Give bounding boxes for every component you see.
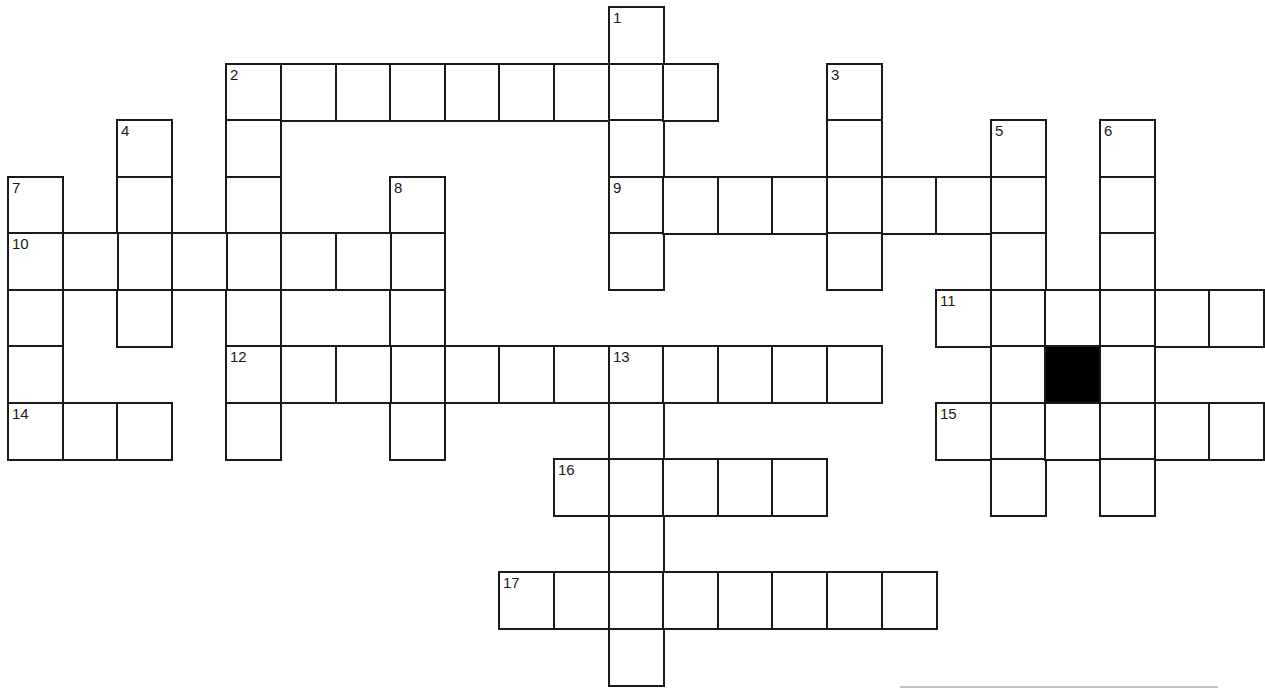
crossword-cell[interactable]: 4 bbox=[116, 119, 173, 178]
crossword-cell[interactable]: 10 bbox=[7, 232, 64, 291]
clue-number: 7 bbox=[12, 180, 20, 195]
crossword-cell[interactable]: 7 bbox=[7, 176, 64, 235]
crossword-cell[interactable] bbox=[444, 63, 501, 122]
crossword-cell[interactable] bbox=[116, 176, 173, 235]
crossword-cell[interactable] bbox=[171, 232, 228, 291]
crossword-cell[interactable]: 2 bbox=[225, 63, 282, 122]
crossword-cell[interactable] bbox=[553, 345, 610, 404]
crossword-cell[interactable] bbox=[662, 345, 719, 404]
crossword-cell[interactable] bbox=[1099, 458, 1156, 517]
crossword-cell[interactable] bbox=[1208, 289, 1265, 348]
crossword-cell[interactable] bbox=[389, 345, 446, 404]
crossword-cell[interactable] bbox=[990, 345, 1047, 404]
crossword-cell[interactable] bbox=[62, 402, 119, 461]
crossword-cell[interactable] bbox=[389, 232, 446, 291]
crossword-cell[interactable] bbox=[826, 571, 883, 630]
crossword-cell[interactable]: 8 bbox=[389, 176, 446, 235]
crossword-cell[interactable] bbox=[608, 63, 665, 122]
crossword-cell[interactable] bbox=[935, 176, 992, 235]
crossword-cell[interactable]: 11 bbox=[935, 289, 992, 348]
crossword-cell[interactable]: 17 bbox=[498, 571, 555, 630]
crossword-cell[interactable] bbox=[717, 176, 774, 235]
crossword-cell[interactable]: 12 bbox=[225, 345, 282, 404]
crossword-cell[interactable] bbox=[280, 63, 337, 122]
crossword-cell[interactable]: 6 bbox=[1099, 119, 1156, 178]
crossword-cell[interactable]: 15 bbox=[935, 402, 992, 461]
crossword-cell[interactable]: 16 bbox=[553, 458, 610, 517]
crossword-cell[interactable] bbox=[116, 289, 173, 348]
crossword-cell[interactable] bbox=[225, 232, 282, 291]
crossword-cell[interactable] bbox=[608, 628, 665, 687]
crossword-cell[interactable] bbox=[225, 289, 282, 348]
crossword-cell[interactable] bbox=[717, 345, 774, 404]
crossword-cell[interactable] bbox=[389, 402, 446, 461]
crossword-cell[interactable] bbox=[1154, 402, 1211, 461]
crossword-cell[interactable] bbox=[771, 571, 828, 630]
crossword-cell[interactable] bbox=[444, 345, 501, 404]
crossword-cell[interactable] bbox=[717, 458, 774, 517]
crossword-cell[interactable] bbox=[1099, 289, 1156, 348]
crossword-cell[interactable]: 5 bbox=[990, 119, 1047, 178]
crossword-cell[interactable] bbox=[1099, 176, 1156, 235]
crossword-cell[interactable] bbox=[389, 289, 446, 348]
crossword-cell[interactable] bbox=[608, 571, 665, 630]
crossword-cell[interactable] bbox=[1099, 402, 1156, 461]
crossword-cell[interactable] bbox=[990, 289, 1047, 348]
crossword-cell[interactable] bbox=[608, 458, 665, 517]
clue-number: 11 bbox=[940, 293, 956, 308]
crossword-cell[interactable]: 13 bbox=[608, 345, 665, 404]
crossword-cell[interactable] bbox=[771, 458, 828, 517]
crossword-cell[interactable] bbox=[7, 345, 64, 404]
crossword-cell[interactable] bbox=[990, 402, 1047, 461]
crossword-cell[interactable] bbox=[717, 571, 774, 630]
crossword-cell[interactable] bbox=[116, 232, 173, 291]
crossword-cell[interactable] bbox=[826, 232, 883, 291]
crossword-cell[interactable]: 3 bbox=[826, 63, 883, 122]
crossword-cell[interactable] bbox=[62, 232, 119, 291]
crossword-cell[interactable] bbox=[608, 515, 665, 574]
crossword-cell[interactable] bbox=[335, 345, 392, 404]
crossword-cell[interactable] bbox=[498, 345, 555, 404]
clue-number: 4 bbox=[121, 123, 129, 138]
crossword-cell[interactable] bbox=[771, 176, 828, 235]
crossword-cell[interactable] bbox=[826, 119, 883, 178]
crossword-cell[interactable] bbox=[553, 63, 610, 122]
crossword-cell[interactable] bbox=[662, 63, 719, 122]
crossword-cell[interactable] bbox=[7, 289, 64, 348]
crossword-cell[interactable] bbox=[1099, 345, 1156, 404]
crossword-cell[interactable] bbox=[1154, 289, 1211, 348]
crossword-cell[interactable] bbox=[990, 458, 1047, 517]
clue-number: 10 bbox=[12, 236, 29, 251]
crossword-cell[interactable] bbox=[826, 345, 883, 404]
crossword-cell[interactable] bbox=[225, 402, 282, 461]
crossword-cell[interactable] bbox=[553, 571, 610, 630]
crossword-cell[interactable] bbox=[225, 119, 282, 178]
crossword-cell[interactable] bbox=[335, 63, 392, 122]
crossword-cell[interactable] bbox=[116, 402, 173, 461]
crossword-cell[interactable] bbox=[1099, 232, 1156, 291]
crossword-cell[interactable] bbox=[335, 232, 392, 291]
crossword-cell[interactable] bbox=[280, 345, 337, 404]
crossword-cell[interactable] bbox=[990, 232, 1047, 291]
crossword-cell[interactable] bbox=[280, 232, 337, 291]
crossword-cell[interactable] bbox=[608, 402, 665, 461]
crossword-cell[interactable] bbox=[225, 176, 282, 235]
crossword-cell[interactable] bbox=[662, 176, 719, 235]
crossword-cell[interactable]: 14 bbox=[7, 402, 64, 461]
crossword-cell[interactable] bbox=[1208, 402, 1265, 461]
crossword-cell[interactable]: 9 bbox=[608, 176, 665, 235]
crossword-cell[interactable] bbox=[1044, 402, 1101, 461]
crossword-cell[interactable] bbox=[826, 176, 883, 235]
crossword-cell[interactable] bbox=[1044, 289, 1101, 348]
crossword-cell[interactable] bbox=[881, 176, 938, 235]
crossword-cell[interactable] bbox=[498, 63, 555, 122]
crossword-cell[interactable] bbox=[881, 571, 938, 630]
crossword-cell[interactable]: 1 bbox=[608, 6, 665, 65]
crossword-cell[interactable] bbox=[662, 571, 719, 630]
crossword-cell[interactable] bbox=[662, 458, 719, 517]
crossword-cell[interactable] bbox=[990, 176, 1047, 235]
crossword-cell[interactable] bbox=[608, 119, 665, 178]
crossword-cell[interactable] bbox=[389, 63, 446, 122]
crossword-cell[interactable] bbox=[771, 345, 828, 404]
crossword-cell[interactable] bbox=[608, 232, 665, 291]
